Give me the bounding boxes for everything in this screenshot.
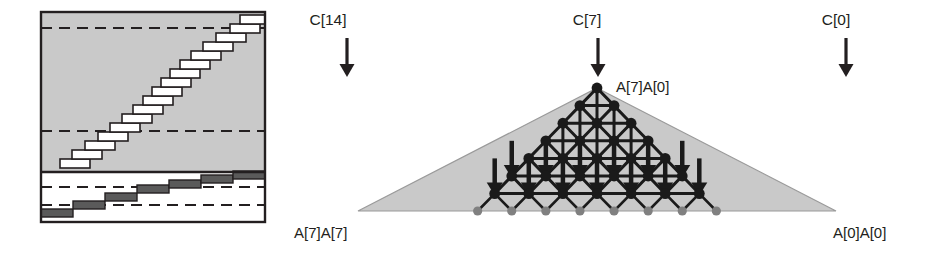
pointer-label-0: C[14] xyxy=(309,11,346,28)
upper-step-14 xyxy=(216,33,246,42)
figure-root: C[14]C[7]C[0] A[7]A[0] A[7]A[7] A[0]A[0] xyxy=(0,0,941,258)
upper-step-16 xyxy=(240,15,265,24)
lattice-node-5-3 xyxy=(609,171,620,182)
lattice-node-5-1 xyxy=(540,171,551,182)
upper-step-3 xyxy=(98,132,128,141)
pointer-label-1: C[7] xyxy=(573,11,601,28)
upper-step-9 xyxy=(161,78,191,87)
lattice-node-6-3 xyxy=(592,188,603,199)
lattice-node-5-0 xyxy=(506,171,517,182)
lattice-node-1-0 xyxy=(575,100,586,111)
pointer-arrow-head-1 xyxy=(591,64,606,77)
lattice-node-2-1 xyxy=(592,118,603,129)
lattice-node-4-1 xyxy=(558,153,569,164)
lattice-node-3-1 xyxy=(575,135,586,146)
lattice-node-6-0 xyxy=(489,188,500,199)
baseline-node-0 xyxy=(473,206,482,215)
upper-step-11 xyxy=(180,60,210,69)
baseline-node-5 xyxy=(644,206,653,215)
lower-step-0 xyxy=(41,209,73,217)
baseline-node-1 xyxy=(507,206,516,215)
lattice-node-4-0 xyxy=(523,153,534,164)
lattice-node-4-4 xyxy=(660,153,671,164)
lower-step-2 xyxy=(105,193,137,201)
lattice-node-1-1 xyxy=(609,100,620,111)
baseline-node-3 xyxy=(575,206,584,215)
upper-step-2 xyxy=(85,141,115,150)
lattice-node-6-4 xyxy=(626,188,637,199)
baseline-node-4 xyxy=(609,206,618,215)
top-pointer-group: C[14]C[7]C[0] xyxy=(309,11,853,77)
label-bottom-left: A[7]A[7] xyxy=(294,224,347,241)
pointer-label-2: C[0] xyxy=(822,11,850,28)
lattice-node-2-0 xyxy=(558,118,569,129)
lattice-node-3-2 xyxy=(609,135,620,146)
lower-step-3 xyxy=(137,185,169,193)
figure-canvas: C[14]C[7]C[0] A[7]A[0] A[7]A[7] A[0]A[0] xyxy=(0,0,941,258)
upper-step-4 xyxy=(110,123,140,132)
lattice-node-3-3 xyxy=(643,135,654,146)
staircase-plot xyxy=(41,12,265,222)
upper-step-0 xyxy=(60,159,90,168)
lattice-node-3-0 xyxy=(540,135,551,146)
lower-step-1 xyxy=(73,201,105,209)
lattice-node-4-2 xyxy=(592,153,603,164)
lattice-node-6-6 xyxy=(694,188,705,199)
label-bottom-right: A[0]A[0] xyxy=(833,224,886,241)
lattice-node-6-1 xyxy=(523,188,534,199)
upper-step-1 xyxy=(72,150,102,159)
upper-step-5 xyxy=(122,114,152,123)
lattice-node-0-0 xyxy=(592,83,603,94)
upper-step-8 xyxy=(152,87,182,96)
lower-step-4 xyxy=(169,180,201,188)
lattice-node-5-5 xyxy=(677,171,688,182)
lattice-node-6-5 xyxy=(660,188,671,199)
lower-step-5 xyxy=(201,175,233,183)
upper-step-13 xyxy=(203,42,233,51)
upper-step-7 xyxy=(143,96,173,105)
baseline-node-7 xyxy=(712,206,721,215)
pointer-arrow-head-2 xyxy=(839,64,854,77)
lattice-node-2-2 xyxy=(626,118,637,129)
upper-step-12 xyxy=(191,51,221,60)
pointer-arrow-head-0 xyxy=(340,64,355,77)
lattice-node-5-2 xyxy=(575,171,586,182)
triangular-lattice-diagram xyxy=(358,83,836,216)
lattice-node-5-4 xyxy=(643,171,654,182)
baseline-node-2 xyxy=(541,206,550,215)
lattice-node-6-2 xyxy=(558,188,569,199)
upper-step-6 xyxy=(133,105,163,114)
upper-step-10 xyxy=(170,69,200,78)
label-apex: A[7]A[0] xyxy=(616,78,669,95)
baseline-node-6 xyxy=(678,206,687,215)
lattice-node-4-3 xyxy=(626,153,637,164)
upper-step-15 xyxy=(230,24,260,33)
